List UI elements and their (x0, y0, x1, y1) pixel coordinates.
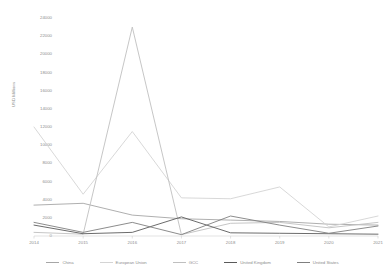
x-axis-tick-label: 2021 (373, 241, 383, 245)
x-axis-tick-label: 2016 (128, 241, 138, 245)
x-axis-tick-label: 2014 (29, 241, 39, 245)
legend-label-united-states: United States (313, 260, 339, 265)
line-chart: USD Millions 020004000600080001000012000… (0, 0, 385, 273)
legend-item-china[interactable]: China (46, 260, 73, 265)
x-axis-tick-label: 2015 (78, 241, 88, 245)
legend-swatch-gcc (173, 262, 186, 263)
legend-label-united-kingdom: United Kingdom (240, 260, 271, 265)
legend-label-gcc: GCC (189, 260, 199, 265)
legend-swatch-united-kingdom (224, 262, 237, 263)
x-axis-tick-label: 2017 (177, 241, 187, 245)
legend-item-gcc[interactable]: GCC (173, 260, 199, 265)
legend-label-european-union: European Union (116, 260, 147, 265)
chart-legend: ChinaEuropean UnionGCCUnited KingdomUnit… (0, 260, 385, 265)
legend-swatch-united-states (297, 262, 310, 263)
legend-label-china: China (62, 260, 73, 265)
legend-item-united-kingdom[interactable]: United Kingdom (224, 260, 271, 265)
legend-item-european-union[interactable]: European Union (100, 260, 147, 265)
x-axis-tick-label: 2019 (275, 241, 285, 245)
legend-item-united-states[interactable]: United States (297, 260, 339, 265)
legend-swatch-european-union (100, 262, 113, 263)
series-line-european-union (34, 127, 378, 227)
x-axis-tick-label: 2018 (226, 241, 236, 245)
plot-area (0, 0, 385, 273)
legend-swatch-china (46, 262, 59, 263)
x-axis-tick-label: 2020 (324, 241, 334, 245)
series-line-china (34, 203, 378, 225)
